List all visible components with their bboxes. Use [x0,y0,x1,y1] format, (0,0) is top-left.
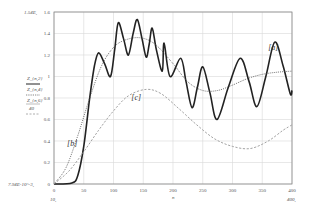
y-tick-label: 1.2 [44,53,51,58]
x-tick-label: 150 [140,188,148,193]
y-tick-label: 0.6 [44,117,51,122]
x-tick-label: 0 [53,188,56,193]
y-tick-label: 1.4 [44,31,51,36]
legend-entry-3: Z_{n,6} [27,98,43,104]
y-bottom-annotation: 7.94E-10^-3, [8,182,34,188]
x-tick-label: 100 [110,188,118,193]
legend-entry-2: Z_{n,4} [27,87,43,93]
y-top-annotation: 1.54E, [24,10,37,16]
legend: Z_{n,2} Z_{n,4} Z_{n,6} 40 [26,76,43,114]
y-axis-ticks: 00.20.40.60.811.21.41.6 [44,10,51,187]
y-tick-label: 0.4 [44,139,51,144]
x-tick-label: 350 [259,188,267,193]
x-axis-ticks: 050100150200250300350400 [53,188,297,193]
x-tick-label: 250 [199,188,207,193]
x-axis-label: n [172,195,175,200]
y-tick-label: 0 [48,182,51,187]
x-left-annotation: 10, [50,197,56,203]
y-tick-label: 1 [48,74,51,79]
x-tick-label: 400 [288,188,296,193]
line-chart: 050100150200250300350400 00.20.40.60.811… [0,0,314,209]
y-tick-label: 0.2 [44,160,51,165]
x-tick-label: 300 [229,188,237,193]
annotation-label: [c] [131,93,141,102]
x-right-annotation: 400, [287,197,296,203]
annotation-label: [b] [67,139,77,148]
legend-entry-1: Z_{n,2} [27,76,43,82]
legend-entry-4: 40 [29,106,35,111]
y-tick-label: 0.8 [44,96,51,101]
annotation-label: [a] [268,43,278,52]
x-tick-label: 50 [81,188,87,193]
y-tick-label: 1.6 [44,10,51,15]
x-tick-label: 200 [169,188,177,193]
